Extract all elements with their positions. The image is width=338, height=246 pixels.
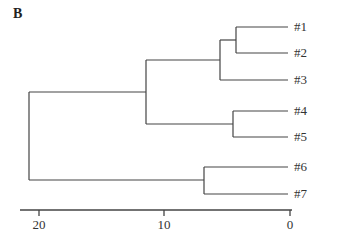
leaf-label-4: #4 xyxy=(294,103,308,118)
leaf-label-1: #1 xyxy=(294,19,307,34)
x-axis xyxy=(20,210,292,216)
tick-label-20: 20 xyxy=(33,217,46,232)
tick-labels: 20 10 0 xyxy=(33,217,294,232)
leaf-label-2: #2 xyxy=(294,45,307,60)
dendrogram-svg: #1 #2 #3 #4 #5 #6 #7 20 10 0 xyxy=(0,0,338,246)
leaf-label-6: #6 xyxy=(294,159,308,174)
tree-branches xyxy=(29,27,288,194)
tick-label-10: 10 xyxy=(158,217,171,232)
leaf-label-3: #3 xyxy=(294,72,307,87)
leaf-labels: #1 #2 #3 #4 #5 #6 #7 xyxy=(294,19,308,201)
leaf-label-5: #5 xyxy=(294,129,307,144)
dendrogram-figure: B xyxy=(0,0,338,246)
tick-label-0: 0 xyxy=(287,217,294,232)
leaf-label-7: #7 xyxy=(294,186,308,201)
